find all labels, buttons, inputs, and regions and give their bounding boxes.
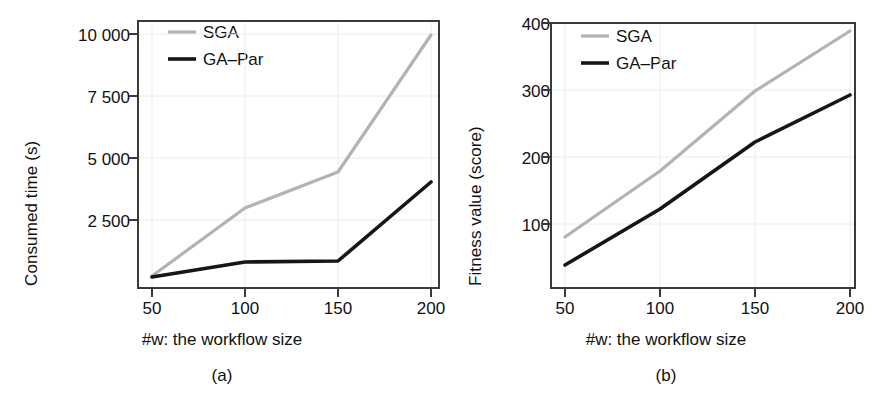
x-axis-ticks-a	[152, 288, 431, 297]
plot-area-b	[444, 0, 888, 403]
chart-panel-b: Fitness value (score) 400 300 200 100 50…	[444, 0, 888, 403]
chart-panel-a: Consumed time (s) 10 000 7 500 5 000 2 5…	[0, 0, 444, 403]
series-line-a-sga	[152, 35, 431, 276]
figure-two-line-charts: Consumed time (s) 10 000 7 500 5 000 2 5…	[0, 0, 888, 403]
y-axis-ticks-b	[542, 23, 551, 224]
plot-frame-a	[138, 21, 439, 288]
series-line-a-gapar	[152, 182, 431, 277]
x-axis-ticks-b	[565, 288, 850, 297]
grid-lines-a	[138, 21, 439, 288]
series-line-b-gapar	[565, 95, 850, 265]
y-axis-ticks-a	[129, 34, 138, 220]
plot-area-a	[0, 0, 444, 403]
